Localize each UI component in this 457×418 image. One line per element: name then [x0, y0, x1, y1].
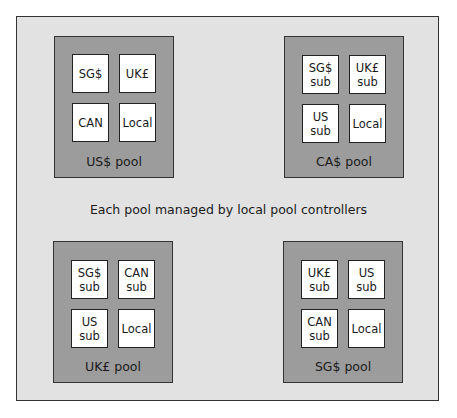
sub-box: Local [118, 309, 155, 348]
sub-box: Local [119, 103, 156, 142]
sub-box: Local [348, 309, 385, 348]
sub-box: US sub [302, 104, 339, 143]
sub-box: US sub [71, 309, 108, 348]
sub-box: SG$ sub [71, 260, 108, 299]
pool-label: US$ pool [55, 154, 173, 169]
pool-label: CA$ pool [285, 154, 403, 169]
pool-cad: SG$ sub UK£ sub US sub Local CA$ pool [284, 36, 404, 178]
sub-box: US sub [348, 260, 385, 299]
sub-box: UK£ sub [349, 55, 386, 94]
sub-box: CAN sub [301, 309, 338, 348]
sub-box: UK£ [119, 54, 156, 93]
pool-gbp: SG$ sub CAN sub US sub Local UK£ pool [53, 241, 173, 383]
diagram-caption: Each pool managed by local pool controll… [0, 202, 457, 217]
pool-usd: SG$ UK£ CAN Local US$ pool [54, 36, 174, 178]
pool-label: UK£ pool [54, 359, 172, 374]
pool-label: SG$ pool [284, 359, 402, 374]
sub-box: CAN sub [118, 260, 155, 299]
sub-box: UK£ sub [301, 260, 338, 299]
sub-box: CAN [72, 103, 109, 142]
pool-sgd: UK£ sub US sub CAN sub Local SG$ pool [283, 241, 403, 383]
sub-box: SG$ [72, 54, 109, 93]
sub-box: Local [349, 104, 386, 143]
sub-box: SG$ sub [302, 55, 339, 94]
